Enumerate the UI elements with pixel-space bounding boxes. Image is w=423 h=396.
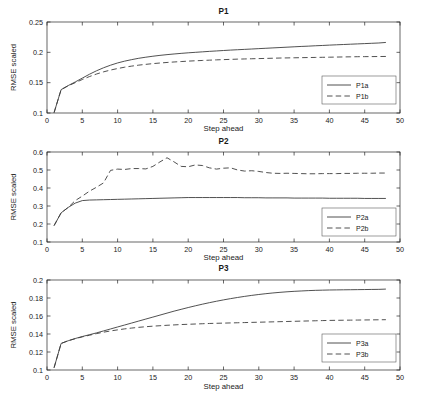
y-tick-label: 0.3: [33, 202, 43, 211]
legend-label-p1a: P1a: [356, 82, 369, 89]
legend-box: [322, 208, 396, 236]
chart-panel-p2: 051015202530354045500.10.20.30.40.50.6P2…: [0, 132, 423, 264]
x-tick-label: 35: [290, 373, 298, 382]
x-tick-label: 20: [184, 116, 192, 125]
x-tick-label: 30: [255, 245, 263, 254]
x-tick-label: 45: [361, 116, 369, 125]
x-tick-label: 40: [325, 373, 333, 382]
chart-panel-p3: 051015202530354045500.10.120.140.160.180…: [0, 258, 423, 396]
x-tick-label: 0: [45, 116, 49, 125]
panel-title: P3: [218, 264, 228, 273]
y-tick-label: 0.1: [33, 109, 43, 118]
y-tick-label: 0.12: [29, 348, 43, 357]
y-tick-label: 0.14: [29, 330, 43, 339]
x-tick-label: 10: [114, 373, 122, 382]
y-tick-label: 0.5: [33, 166, 43, 175]
y-tick-label: 0.1: [33, 366, 43, 375]
x-tick-label: 5: [80, 116, 84, 125]
y-tick-label: 0.1: [33, 238, 43, 247]
y-tick-label: 0.18: [29, 294, 43, 303]
y-tick-label: 0.2: [33, 220, 43, 229]
y-tick-label: 0.25: [29, 18, 43, 27]
legend-label-p1b: P1b: [356, 93, 369, 100]
y-tick-label: 0.2: [33, 276, 43, 285]
x-tick-label: 30: [255, 373, 263, 382]
plot-p2: 051015202530354045500.10.20.30.40.50.6P2…: [0, 132, 423, 264]
y-tick-label: 0.16: [29, 312, 43, 321]
x-tick-label: 20: [184, 373, 192, 382]
plot-p3: 051015202530354045500.10.120.140.160.180…: [0, 258, 423, 396]
y-axis-label: RMSE scaled: [9, 44, 18, 91]
x-tick-label: 30: [255, 116, 263, 125]
x-tick-label: 15: [149, 245, 157, 254]
x-tick-label: 35: [290, 116, 298, 125]
y-tick-label: 0.15: [29, 78, 43, 87]
y-axis-label: RMSE scaled: [9, 301, 18, 348]
x-tick-label: 35: [290, 245, 298, 254]
y-tick-label: 0.4: [33, 184, 43, 193]
y-tick-label: 0.6: [33, 148, 43, 157]
legend-box: [322, 76, 396, 104]
x-tick-label: 50: [396, 373, 404, 382]
x-tick-label: 40: [325, 245, 333, 254]
panel-title: P1: [218, 7, 228, 16]
x-tick-label: 5: [80, 373, 84, 382]
legend-label-p3b: P3b: [356, 351, 369, 358]
x-tick-label: 45: [361, 373, 369, 382]
x-tick-label: 40: [325, 116, 333, 125]
y-axis-label: RMSE scaled: [9, 173, 18, 220]
y-tick-label: 0.2: [33, 48, 43, 57]
x-tick-label: 50: [396, 245, 404, 254]
x-tick-label: 0: [45, 373, 49, 382]
panel-title: P2: [218, 137, 228, 146]
x-tick-label: 50: [396, 116, 404, 125]
x-tick-label: 10: [114, 245, 122, 254]
legend-box: [322, 334, 396, 362]
x-tick-label: 15: [149, 116, 157, 125]
x-tick-label: 45: [361, 245, 369, 254]
x-axis-label: Step ahead: [204, 382, 244, 391]
figure-canvas: 051015202530354045500.10.150.20.25P1Step…: [0, 0, 423, 396]
x-tick-label: 10: [114, 116, 122, 125]
legend-label-p2a: P2a: [356, 214, 369, 221]
x-tick-label: 15: [149, 373, 157, 382]
chart-panel-p1: 051015202530354045500.10.150.20.25P1Step…: [0, 0, 423, 134]
plot-p1: 051015202530354045500.10.150.20.25P1Step…: [0, 0, 423, 134]
legend-label-p2b: P2b: [356, 225, 369, 232]
legend-label-p3a: P3a: [356, 340, 369, 347]
x-tick-label: 25: [220, 373, 228, 382]
x-tick-label: 5: [80, 245, 84, 254]
x-tick-label: 20: [184, 245, 192, 254]
x-tick-label: 0: [45, 245, 49, 254]
